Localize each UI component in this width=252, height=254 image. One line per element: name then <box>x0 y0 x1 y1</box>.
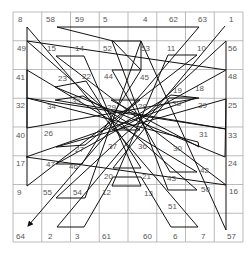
cell-number-label: 4 <box>143 15 148 24</box>
cell-number-label: 42 <box>200 166 209 175</box>
cell-number-label: 9 <box>17 188 22 197</box>
cell-number-label: 17 <box>16 159 25 168</box>
cell-number-label: 21 <box>142 172 151 181</box>
cell-number-label: 55 <box>43 188 52 197</box>
cell-number-label: 54 <box>73 188 82 197</box>
cell-number-label: 45 <box>140 73 149 82</box>
cell-number-label: 5 <box>103 15 108 24</box>
cell-number-label: 29 <box>107 103 116 112</box>
cell-number-label: 61 <box>102 232 111 241</box>
cell-number-label: 58 <box>46 15 55 24</box>
cell-number-label: 13 <box>144 189 153 198</box>
cell-number-label: 18 <box>195 84 204 93</box>
cell-number-label: 44 <box>104 72 113 81</box>
cell-number-label: 6 <box>173 232 178 241</box>
cell-number-label: 22 <box>82 72 91 81</box>
cell-number-label: 26 <box>44 129 53 138</box>
cell-number-label: 16 <box>229 187 238 196</box>
magic-square-diagram: 8585954626314915145253111056412322444519… <box>0 0 252 254</box>
cell-number-label: 27 <box>75 145 84 154</box>
cell-number-label: 43 <box>167 174 176 183</box>
cell-number-label: 40 <box>16 131 25 140</box>
cell-number-label: 8 <box>18 15 23 24</box>
cell-number-label: 46 <box>69 162 78 171</box>
cell-number-label: 38 <box>172 99 181 108</box>
cell-number-label: 34 <box>47 102 56 111</box>
cell-number-label: 59 <box>75 15 84 24</box>
cell-number-label: 53 <box>141 44 150 53</box>
cell-number-label: 51 <box>168 202 177 211</box>
cell-number-label: 24 <box>228 159 237 168</box>
cell-number-label: 7 <box>201 232 206 241</box>
cell-number-label: 48 <box>228 72 237 81</box>
cell-number-label: 25 <box>228 101 237 110</box>
cell-number-label: 23 <box>58 74 67 83</box>
cell-number-label: 35 <box>72 97 81 106</box>
cell-number-label: 10 <box>197 44 206 53</box>
cell-number-label: 50 <box>201 185 210 194</box>
cell-number-label: 63 <box>198 15 207 24</box>
cell-number-label: 36 <box>138 142 147 151</box>
cell-number-label: 62 <box>169 15 178 24</box>
cell-number-label: 11 <box>167 44 176 53</box>
cell-number-label: 47 <box>46 160 55 169</box>
cell-number-label: 1 <box>229 15 234 24</box>
cell-number-label: 19 <box>173 86 182 95</box>
cell-number-label: 33 <box>228 131 237 140</box>
cell-number-label: 56 <box>228 44 237 53</box>
cell-number-label: 28 <box>138 102 147 111</box>
cell-number-label: 14 <box>75 44 84 53</box>
cell-number-label: 60 <box>143 232 152 241</box>
cell-number-label: 41 <box>16 73 25 82</box>
cell-number-label: 15 <box>47 44 56 53</box>
cell-number-label: 49 <box>17 44 26 53</box>
cell-number-label: 3 <box>75 232 80 241</box>
sequence-path-line <box>26 26 226 230</box>
cell-number-label: 39 <box>198 101 207 110</box>
cell-labels: 8585954626314915145253111056412322444519… <box>16 15 238 241</box>
cell-number-label: 37 <box>108 142 117 151</box>
cell-number-label: 12 <box>102 188 111 197</box>
cell-number-label: 57 <box>227 232 236 241</box>
cell-number-label: 32 <box>16 101 25 110</box>
number-path <box>26 26 226 230</box>
cell-number-label: 30 <box>173 144 182 153</box>
cell-number-label: 52 <box>103 44 112 53</box>
cell-number-label: 2 <box>48 232 53 241</box>
cell-number-label: 64 <box>16 232 25 241</box>
cell-number-label: 20 <box>104 172 113 181</box>
cell-number-label: 31 <box>199 130 208 139</box>
